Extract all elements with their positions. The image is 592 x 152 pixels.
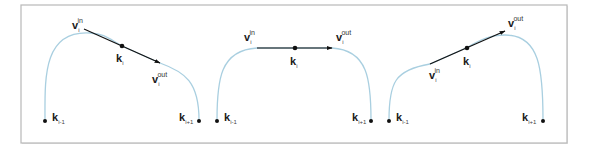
- keyframe-point-k-next: [541, 119, 545, 123]
- keyframe-point-k-prev: [387, 119, 391, 123]
- keyframe-point-k-i: [120, 44, 125, 49]
- keyframe-point-k-prev: [215, 119, 219, 123]
- diagram-frame: [21, 5, 567, 143]
- keyframe-point-k-i: [293, 46, 298, 51]
- keyframe-point-k-next: [197, 119, 201, 123]
- keyframe-point-k-prev: [43, 119, 47, 123]
- keyframe-point-k-next: [369, 119, 373, 123]
- spline-tangent-diagram: viin ki viout ki-1 ki+1 viin ki viout: [0, 0, 592, 152]
- keyframe-point-k-i: [465, 46, 470, 51]
